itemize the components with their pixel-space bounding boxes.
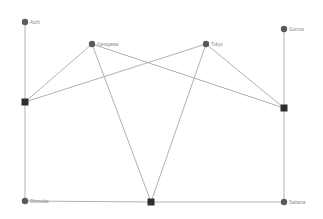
node-label: Kanagawa (97, 42, 119, 47)
edge-tokyo-s2 (151, 44, 206, 202)
node-label: Gunma (289, 27, 304, 32)
node-label: Shizuoka (30, 199, 49, 204)
node-label: Saitama (289, 200, 306, 205)
square-node-icon[interactable] (281, 105, 288, 112)
circle-node-icon[interactable] (22, 198, 28, 204)
node-label: Tokyo (211, 42, 223, 47)
node-gunma[interactable]: Gunma (281, 26, 304, 32)
circle-node-icon[interactable] (281, 26, 287, 32)
edge-kanagawa-s3 (92, 44, 284, 108)
node-label: Aichi (30, 20, 40, 25)
node-saitama[interactable]: Saitama (281, 199, 306, 205)
edge-tokyo-s3 (206, 44, 284, 108)
square-node-icon[interactable] (22, 99, 29, 106)
square-node-icon[interactable] (148, 199, 155, 206)
node-shizuoka[interactable]: Shizuoka (22, 198, 49, 204)
node-s2[interactable] (148, 199, 155, 206)
node-s1[interactable] (22, 99, 29, 106)
node-aichi[interactable]: Aichi (22, 19, 40, 25)
circle-node-icon[interactable] (89, 41, 95, 47)
node-kanagawa[interactable]: Kanagawa (89, 41, 119, 47)
circle-node-icon[interactable] (203, 41, 209, 47)
edges-layer (25, 22, 284, 202)
edge-kanagawa-s1 (25, 44, 92, 102)
circle-node-icon[interactable] (281, 199, 287, 205)
nodes-layer: AichiKanagawaTokyoGunmaShizuokaSaitama (22, 19, 307, 206)
node-s3[interactable] (281, 105, 288, 112)
edge-kanagawa-s2 (92, 44, 151, 202)
node-tokyo[interactable]: Tokyo (203, 41, 223, 47)
network-diagram: AichiKanagawaTokyoGunmaShizuokaSaitama (0, 0, 323, 219)
circle-node-icon[interactable] (22, 19, 28, 25)
